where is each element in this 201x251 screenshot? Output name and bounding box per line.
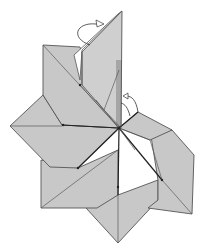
crease-point — [79, 84, 81, 86]
crease-point — [161, 179, 163, 181]
origami-diagram — [0, 0, 201, 251]
center-point — [118, 127, 121, 130]
crease-point — [117, 186, 119, 188]
crease-point — [62, 124, 64, 126]
crease-point — [77, 167, 79, 169]
fold-arrow-right-icon — [121, 93, 138, 116]
